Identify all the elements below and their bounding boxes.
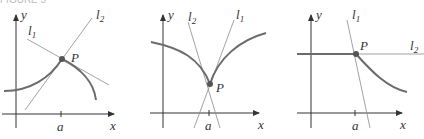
x-label: x bbox=[399, 117, 406, 132]
panel-3: y x a P l1 l2 bbox=[297, 7, 424, 133]
l1-label: l1 bbox=[236, 7, 244, 24]
curve bbox=[62, 59, 96, 100]
tangent-l1 bbox=[347, 20, 370, 128]
panel-1: y x a P l1 l2 bbox=[2, 7, 116, 134]
point-p bbox=[207, 81, 213, 87]
p-label: P bbox=[215, 80, 224, 95]
a-label: a bbox=[57, 119, 64, 134]
point-p bbox=[59, 56, 65, 62]
a-label: a bbox=[352, 118, 359, 133]
l1-label: l1 bbox=[352, 7, 360, 24]
curve bbox=[4, 59, 62, 91]
p-label: P bbox=[359, 38, 368, 53]
point-p bbox=[353, 51, 359, 57]
l2-label: l2 bbox=[96, 7, 105, 24]
curve bbox=[210, 33, 266, 84]
curve bbox=[151, 42, 210, 84]
tangent-l2 bbox=[188, 22, 220, 128]
x-label: x bbox=[257, 117, 264, 132]
l2-label: l2 bbox=[410, 38, 419, 55]
l2-label: l2 bbox=[188, 9, 197, 26]
l1-label: l1 bbox=[28, 23, 36, 40]
p-label: P bbox=[70, 50, 79, 65]
a-label: a bbox=[205, 118, 212, 133]
y-label: y bbox=[19, 7, 27, 22]
panel-2: y x a P l2 l1 bbox=[150, 7, 266, 133]
figure: y x a P l1 l2 y x a P l2 l1 y x a P bbox=[0, 0, 424, 139]
y-label: y bbox=[314, 7, 322, 22]
y-label: y bbox=[166, 7, 174, 22]
x-label: x bbox=[109, 118, 116, 133]
curve bbox=[356, 54, 407, 92]
